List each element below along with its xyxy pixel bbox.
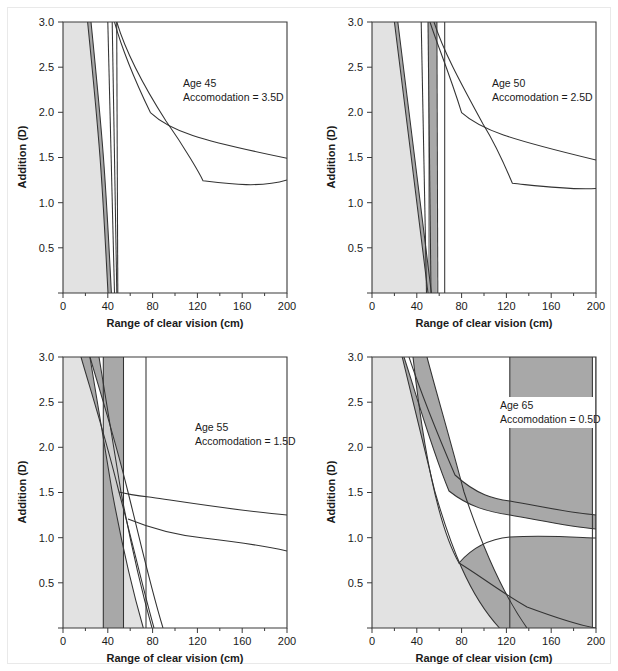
x-tick-label: 80 [455,635,467,647]
panel-age-50: Age 50 Accomodation = 2.5D 0.5 1.0 [309,0,618,335]
x-tick-label: 160 [542,300,560,312]
x-tick-label: 160 [233,635,251,647]
x-axis-ticks-age-45: 0 40 80 120 160 200 [60,293,296,312]
y-tick-label: 1.5 [348,151,363,163]
y-tick-label: 3.0 [348,16,363,28]
y-tick-label: 3.0 [39,351,54,363]
y-tick-label: 2.0 [39,106,54,118]
y-tick-label: 3.0 [348,351,363,363]
chart-age-50: Age 50 Accomodation = 2.5D 0.5 1.0 [309,0,618,335]
x-tick-label: 200 [278,300,296,312]
y-tick-label: 1.0 [348,532,363,544]
y-tick-label: 0.5 [39,577,54,589]
x-tick-label: 40 [411,300,423,312]
x-tick-label: 80 [146,635,158,647]
x-tick-label: 0 [369,635,375,647]
y-tick-label: 2.0 [348,441,363,453]
y-tick-label: 2.5 [39,396,54,408]
y-tick-label: 1.0 [348,197,363,209]
chart-age-65: Age 65 Accomodation = 0.5D 0.5 1.0 [309,335,618,671]
y-axis-title: Addition (D) [16,460,28,523]
chart-age-45: Age 45 Accomodation = 3.5D [0,0,309,335]
x-tick-label: 120 [497,635,515,647]
x-tick-label: 160 [233,300,251,312]
x-axis-title: Range of clear vision (cm) [107,317,244,329]
x-tick-label: 200 [278,635,296,647]
x-axis-title: Range of clear vision (cm) [416,652,553,664]
y-tick-label: 2.5 [39,61,54,73]
panel-age-55: Age 55 Accomodation = 1.5D 0.5 1.0 [0,335,309,671]
y-tick-label: 1.0 [39,532,54,544]
y-tick-label: 0.5 [39,242,54,254]
chart-age-55: Age 55 Accomodation = 1.5D 0.5 1.0 [0,335,309,671]
y-axis-ticks-age-45: 0.5 1.0 1.5 2.0 2.5 3.0 [39,16,63,293]
x-tick-label: 80 [146,300,158,312]
y-tick-label: 2.5 [348,396,363,408]
y-tick-label: 1.5 [39,486,54,498]
y-tick-label: 3.0 [39,16,54,28]
x-tick-label: 0 [60,635,66,647]
y-axis-ticks-age-65: 0.5 1.0 1.5 2.0 2.5 3.0 [348,351,372,628]
x-axis-title: Range of clear vision (cm) [107,652,244,664]
x-tick-label: 40 [411,635,423,647]
panel-age-45: Age 45 Accomodation = 3.5D [0,0,309,335]
panel-age-65: Age 65 Accomodation = 0.5D 0.5 1.0 [309,335,618,671]
x-tick-label: 40 [102,635,114,647]
y-tick-label: 2.0 [39,441,54,453]
annotation-accommodation-label: Accomodation = 1.5D [195,435,296,447]
y-tick-label: 0.5 [348,577,363,589]
y-axis-title: Addition (D) [16,125,28,188]
x-tick-label: 200 [587,635,605,647]
figure-root: Age 45 Accomodation = 3.5D [0,0,618,671]
x-axis-ticks-age-65: 0 40 80 120 160 200 [369,628,605,647]
x-tick-label: 80 [455,300,467,312]
x-tick-label: 160 [542,635,560,647]
annotation-accommodation-label: Accomodation = 3.5D [183,91,284,103]
annotation-accommodation-label: Accomodation = 0.5D [500,413,601,425]
x-tick-label: 40 [102,300,114,312]
x-axis-title: Range of clear vision (cm) [416,317,553,329]
x-tick-label: 120 [188,635,206,647]
plot-area-age-45 [63,22,287,293]
x-axis-ticks-age-50: 0 40 80 120 160 200 [369,293,605,312]
y-axis-title: Addition (D) [325,460,337,523]
annotation-age-label: Age 50 [492,77,525,89]
annotation-age-label: Age 55 [195,421,228,433]
y-axis-ticks-age-55: 0.5 1.0 1.5 2.0 2.5 3.0 [39,351,63,628]
x-tick-label: 120 [188,300,206,312]
x-tick-label: 120 [497,300,515,312]
x-tick-label: 200 [587,300,605,312]
x-axis-ticks-age-55: 0 40 80 120 160 200 [60,628,296,647]
y-tick-label: 1.5 [39,151,54,163]
plot-area-age-50 [372,22,596,293]
panel-grid: Age 45 Accomodation = 3.5D [0,0,618,671]
annotation-age-label: Age 65 [500,399,533,411]
annotation-age-label: Age 45 [183,77,216,89]
y-tick-label: 0.5 [348,242,363,254]
x-tick-label: 0 [369,300,375,312]
plot-area-age-55 [63,357,287,628]
y-axis-title: Addition (D) [325,125,337,188]
y-axis-ticks-age-50: 0.5 1.0 1.5 2.0 2.5 3.0 [348,16,372,293]
y-tick-label: 2.0 [348,106,363,118]
y-tick-label: 1.0 [39,197,54,209]
annotation-age-65: Age 65 Accomodation = 0.5D [495,397,601,428]
x-tick-label: 0 [60,300,66,312]
y-tick-label: 1.5 [348,486,363,498]
y-tick-label: 2.5 [348,61,363,73]
annotation-accommodation-label: Accomodation = 2.5D [492,91,593,103]
